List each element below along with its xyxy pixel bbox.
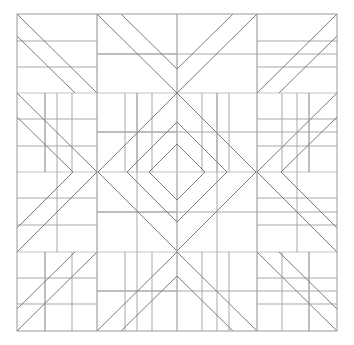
quilt-pattern-figure	[0, 0, 354, 345]
pattern-canvas	[0, 0, 354, 345]
